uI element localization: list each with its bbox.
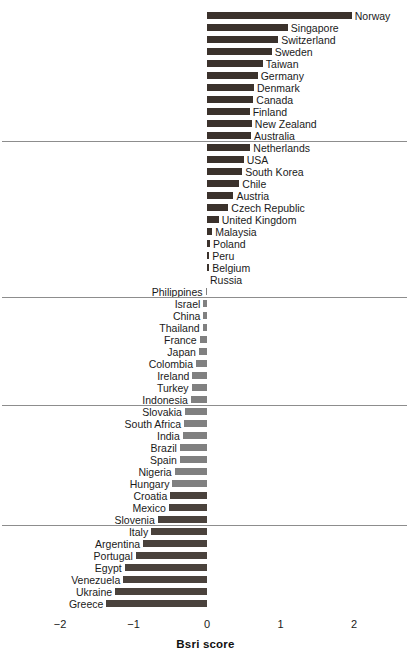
bar — [207, 96, 253, 103]
bar-category-label: Sweden — [275, 46, 313, 58]
bar — [199, 348, 207, 355]
bar — [172, 480, 207, 487]
bar-category-label: Croatia — [133, 490, 167, 502]
bar-category-label: Brazil — [151, 442, 177, 454]
bar-category-label: Peru — [212, 250, 234, 262]
chart-bar-row: Canada — [0, 94, 411, 106]
bar-category-label: Czech Republic — [231, 202, 305, 214]
bar — [207, 132, 251, 139]
bar-category-label: Netherlands — [253, 142, 310, 154]
chart-bar-row: France — [0, 334, 411, 346]
bar-category-label: USA — [247, 154, 269, 166]
chart-bar-row: New Zealand — [0, 118, 411, 130]
bar — [180, 444, 207, 451]
bar-category-label: Portugal — [94, 550, 133, 562]
chart-bar-row: Israel — [0, 298, 411, 310]
bar — [123, 576, 207, 583]
bar — [206, 288, 207, 295]
bar — [191, 396, 207, 403]
bar-category-label: China — [173, 310, 200, 322]
chart-bar-row: Slovakia — [0, 406, 411, 418]
bar — [180, 456, 207, 463]
bar — [207, 60, 263, 67]
bar-category-label: New Zealand — [255, 118, 317, 130]
x-tick-label: −1 — [119, 618, 149, 631]
bar-category-label: Colombia — [149, 358, 193, 370]
x-tick-label: 2 — [339, 618, 369, 631]
bar-category-label: Germany — [261, 70, 304, 82]
bar — [106, 600, 207, 607]
chart-bar-row: Colombia — [0, 358, 411, 370]
chart-bar-row: Hungary — [0, 478, 411, 490]
bar-category-label: Russia — [210, 274, 242, 286]
chart-bar-row: Singapore — [0, 22, 411, 34]
bar — [203, 312, 207, 319]
bar — [207, 204, 228, 211]
bar — [207, 180, 239, 187]
chart-bar-row: USA — [0, 154, 411, 166]
bar — [170, 492, 207, 499]
bar — [115, 588, 207, 595]
bar — [185, 408, 207, 415]
chart-bar-row: Sweden — [0, 46, 411, 58]
bar-category-label: Ireland — [157, 370, 189, 382]
plot-area: NorwaySingaporeSwitzerlandSwedenTaiwanGe… — [0, 0, 411, 614]
bar — [183, 432, 207, 439]
bar — [203, 300, 207, 307]
bar-category-label: Greece — [69, 598, 103, 610]
bar — [207, 72, 258, 79]
bar-category-label: Malaysia — [215, 226, 256, 238]
chart-bar-row: Czech Republic — [0, 202, 411, 214]
chart-bar-row: Switzerland — [0, 34, 411, 46]
bar — [207, 48, 272, 55]
chart-bar-row: Japan — [0, 346, 411, 358]
bar-category-label: India — [157, 430, 180, 442]
bar-category-label: South Africa — [125, 418, 182, 430]
bar-category-label: Taiwan — [266, 58, 299, 70]
bar-category-label: Singapore — [291, 22, 339, 34]
chart-bar-row: Russia — [0, 274, 411, 286]
bar — [207, 144, 250, 151]
bar — [192, 372, 207, 379]
bar-category-label: Finland — [253, 106, 287, 118]
bar-category-label: Israel — [175, 298, 201, 310]
chart-bar-row: Argentina — [0, 538, 411, 550]
bar — [207, 228, 212, 235]
bar — [192, 384, 207, 391]
bar-category-label: Switzerland — [281, 34, 335, 46]
bar-category-label: Poland — [213, 238, 246, 250]
bar-category-label: Argentina — [95, 538, 140, 550]
x-tick-label: 0 — [192, 618, 222, 631]
chart-bar-row: Denmark — [0, 82, 411, 94]
bar-category-label: Nigeria — [138, 466, 171, 478]
bar — [207, 252, 209, 259]
chart-bar-row: Thailand — [0, 322, 411, 334]
bar-category-label: Norway — [355, 10, 391, 22]
bar-category-label: Denmark — [257, 82, 300, 94]
bar — [207, 12, 352, 19]
chart-bar-row: Venezuela — [0, 574, 411, 586]
bsri-score-bar-chart: NorwaySingaporeSwitzerlandSwedenTaiwanGe… — [0, 0, 411, 660]
bar-category-label: Thailand — [159, 322, 199, 334]
bar — [207, 168, 242, 175]
bar-category-label: Turkey — [157, 382, 189, 394]
chart-bar-row: India — [0, 430, 411, 442]
bar-category-label: Japan — [167, 346, 196, 358]
bar-category-label: France — [164, 334, 197, 346]
chart-bar-row: Ireland — [0, 370, 411, 382]
bar-category-label: Slovakia — [142, 406, 182, 418]
chart-bar-row: Croatia — [0, 490, 411, 502]
bar — [207, 108, 250, 115]
chart-bar-row: Belgium — [0, 262, 411, 274]
chart-bar-row: Austria — [0, 190, 411, 202]
chart-bar-row: Spain — [0, 454, 411, 466]
chart-bar-row: Egypt — [0, 562, 411, 574]
bar — [143, 540, 207, 547]
chart-bar-row: Brazil — [0, 442, 411, 454]
group-separator — [2, 525, 407, 526]
bar — [207, 36, 278, 43]
bar — [207, 84, 254, 91]
chart-bar-row: Chile — [0, 178, 411, 190]
bar-category-label: Chile — [242, 178, 266, 190]
chart-bar-row: South Africa — [0, 418, 411, 430]
